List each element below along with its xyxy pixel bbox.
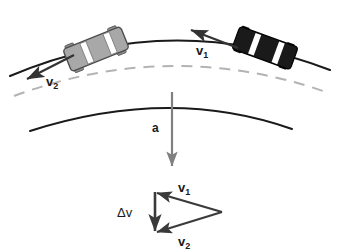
triangle-vector-delta-v-label: Δv: [117, 205, 133, 220]
vector-triangle-group: v1 v2 Δv: [117, 180, 222, 251]
velocity-vector-v2-road-label: v2: [46, 74, 58, 91]
velocity-vector-v1-road-label: v1: [196, 43, 208, 60]
car-front-dark: [231, 25, 298, 72]
physics-diagram-circular-motion: v2 v1 a: [0, 0, 337, 252]
triangle-vector-v2-label: v2: [178, 234, 190, 251]
velocity-vector-v1-road: v1: [191, 30, 238, 60]
acceleration-vector-a: a: [152, 92, 172, 166]
diagram-canvas: v2 v1 a: [0, 0, 337, 252]
car-body: [63, 26, 129, 71]
car-rear-gray: [62, 24, 130, 74]
acceleration-vector-a-label: a: [152, 121, 159, 135]
inner-road-edge: [30, 108, 292, 131]
triangle-vector-v1-label: v1: [178, 180, 190, 197]
car-body: [232, 26, 298, 70]
road-center-line: [14, 66, 326, 96]
triangle-vector-v2: [157, 212, 222, 232]
